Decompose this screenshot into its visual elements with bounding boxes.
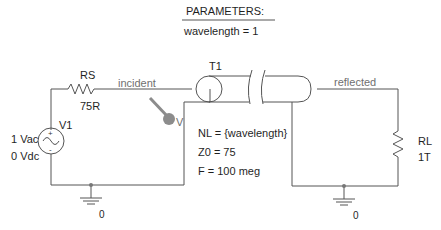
resistor-rs-symbol [68,84,94,94]
v1-name[interactable]: V1 [59,119,72,131]
v1-ac-value[interactable]: 1 Vac [11,133,38,145]
probe-label: V [176,116,183,128]
svg-text:-: - [49,145,52,154]
t1-param-z0[interactable]: Z0 = 75 [198,146,236,158]
parameters-value[interactable]: wavelength = 1 [184,25,258,37]
rs-value[interactable]: 75R [80,100,100,112]
sine-wave-icon [43,138,59,145]
parameters-header: PARAMETERS: [186,5,264,17]
t1-name[interactable]: T1 [209,60,222,72]
ground-label-left: 0 [99,209,105,221]
junction-dot [89,183,93,187]
rl-name[interactable]: RL [418,135,432,147]
tline-input-port [196,76,222,102]
rl-value[interactable]: 1T [418,151,431,163]
junction-dot-right [342,184,346,188]
net-label-incident[interactable]: incident [118,77,156,89]
tline-output-port [298,76,311,102]
probe-stem [150,98,168,117]
t1-param-f[interactable]: F = 100 meg [198,165,260,177]
t1-param-nl[interactable]: NL = {wavelength} [198,127,287,139]
ground-label-right: 0 [353,210,359,222]
net-label-reflected[interactable]: reflected [334,76,376,88]
v1-dc-value[interactable]: 0 Vdc [11,150,39,162]
rs-name[interactable]: RS [80,69,95,81]
break-mark-right [261,70,265,104]
voltage-probe-icon [163,113,175,125]
svg-text:+: + [48,129,53,138]
break-mark-left [248,70,252,104]
resistor-rl-symbol [393,131,403,157]
